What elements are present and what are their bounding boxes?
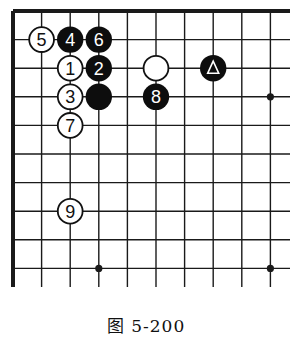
white-stone (144, 56, 169, 81)
white-stone-1: 1 (58, 56, 83, 81)
star-point (95, 265, 102, 272)
black-stone-triangle (200, 55, 226, 81)
star-point (267, 265, 274, 272)
move-number: 2 (94, 59, 104, 79)
move-number: 7 (65, 116, 75, 136)
white-stone-9: 9 (58, 199, 83, 224)
black-stone-8: 8 (143, 84, 169, 110)
move-number: 1 (65, 59, 75, 79)
black-stone-4: 4 (57, 26, 83, 52)
black-stone-2: 2 (86, 55, 112, 81)
black-stone-body (86, 84, 112, 110)
white-stone-body (144, 56, 169, 81)
black-stone-6: 6 (86, 26, 112, 52)
move-number: 5 (37, 30, 47, 50)
black-stone-body (200, 55, 226, 81)
move-number: 8 (151, 87, 161, 107)
figure-caption: 图 5-200 (0, 312, 292, 337)
move-number: 4 (65, 30, 75, 50)
white-stone-3: 3 (58, 84, 83, 109)
board-grid (13, 11, 290, 287)
white-stone-5: 5 (29, 27, 54, 52)
black-stone (86, 84, 112, 110)
move-number: 9 (65, 202, 75, 222)
move-number: 3 (65, 87, 75, 107)
star-point (267, 93, 274, 100)
move-number: 6 (94, 30, 104, 50)
white-stone-7: 7 (58, 113, 83, 138)
